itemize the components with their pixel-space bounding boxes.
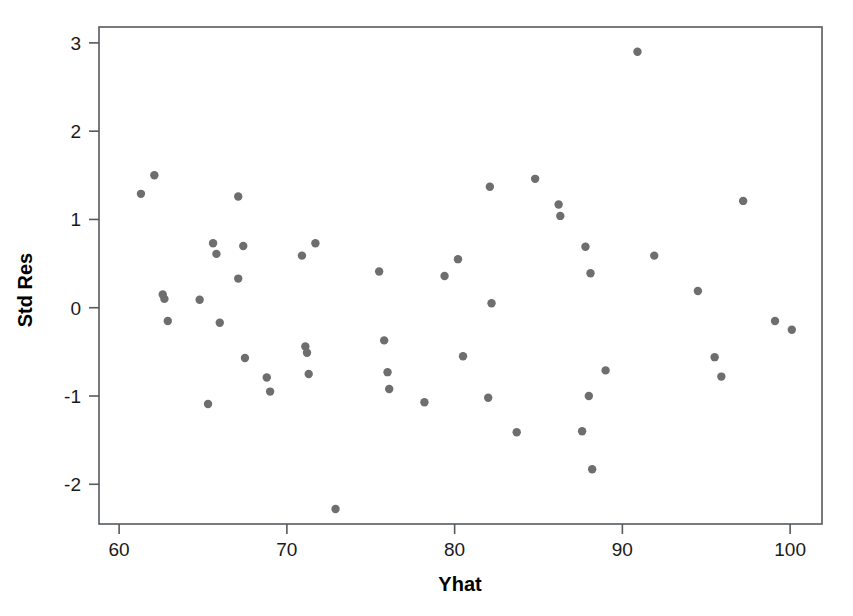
- data-point: [484, 394, 492, 402]
- y-tick-label: 1: [70, 209, 81, 230]
- y-axis-title: Std Res: [14, 253, 36, 327]
- data-point: [204, 400, 212, 408]
- data-point: [650, 251, 658, 259]
- y-axis-ticks: [89, 43, 99, 484]
- data-point: [487, 299, 495, 307]
- data-point: [304, 370, 312, 378]
- data-point: [694, 287, 702, 295]
- data-point: [234, 274, 242, 282]
- data-point: [160, 295, 168, 303]
- y-tick-label: 3: [70, 33, 81, 54]
- data-point: [788, 326, 796, 334]
- data-point: [298, 251, 306, 259]
- data-point: [440, 272, 448, 280]
- y-tick-label: -2: [64, 474, 81, 495]
- y-tick-label: 0: [70, 298, 81, 319]
- data-point: [578, 427, 586, 435]
- x-tick-label: 70: [276, 539, 297, 560]
- data-points-layer: [137, 48, 796, 514]
- data-point: [513, 428, 521, 436]
- data-point: [375, 267, 383, 275]
- data-point: [586, 269, 594, 277]
- scatter-plot-figure: 60708090100 -2-10123 Yhat Std Res: [0, 0, 853, 616]
- x-tick-label: 80: [444, 539, 465, 560]
- data-point: [383, 368, 391, 376]
- data-point: [717, 372, 725, 380]
- data-point: [303, 349, 311, 357]
- data-point: [195, 296, 203, 304]
- data-point: [234, 192, 242, 200]
- x-tick-label: 60: [109, 539, 130, 560]
- data-point: [556, 212, 564, 220]
- data-point: [710, 353, 718, 361]
- x-tick-label: 100: [774, 539, 806, 560]
- data-point: [531, 175, 539, 183]
- data-point: [581, 243, 589, 251]
- y-tick-label: -1: [64, 386, 81, 407]
- data-point: [454, 255, 462, 263]
- data-point: [585, 392, 593, 400]
- data-point: [239, 242, 247, 250]
- plot-canvas: 60708090100 -2-10123 Yhat Std Res: [0, 0, 853, 616]
- data-point: [771, 317, 779, 325]
- data-point: [385, 385, 393, 393]
- data-point: [212, 250, 220, 258]
- data-point: [380, 336, 388, 344]
- data-point: [241, 354, 249, 362]
- data-point: [263, 373, 271, 381]
- data-point: [331, 505, 339, 513]
- data-point: [209, 239, 217, 247]
- data-point: [554, 200, 562, 208]
- x-tick-label: 90: [612, 539, 633, 560]
- x-axis-ticks: [119, 524, 790, 534]
- data-point: [216, 319, 224, 327]
- data-point: [150, 171, 158, 179]
- data-point: [266, 387, 274, 395]
- data-point: [486, 183, 494, 191]
- data-point: [588, 465, 596, 473]
- data-point: [311, 239, 319, 247]
- plot-panel-border: [99, 27, 822, 524]
- x-axis-tick-labels: 60708090100: [109, 539, 806, 560]
- data-point: [164, 317, 172, 325]
- data-point: [601, 366, 609, 374]
- data-point: [633, 48, 641, 56]
- data-point: [137, 190, 145, 198]
- y-axis-tick-labels: -2-10123: [64, 33, 81, 495]
- x-axis-title: Yhat: [438, 573, 482, 595]
- y-tick-label: 2: [70, 121, 81, 142]
- data-point: [420, 398, 428, 406]
- data-point: [739, 197, 747, 205]
- data-point: [459, 352, 467, 360]
